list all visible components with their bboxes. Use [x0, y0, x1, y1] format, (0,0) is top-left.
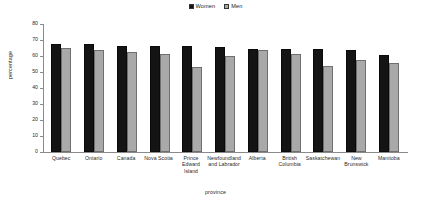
x-category-label: Nova Scotia: [142, 155, 174, 174]
x-category-label: Newfoundland and Labrador: [207, 155, 241, 174]
y-tick-label: 40: [32, 84, 38, 90]
bar-men: [356, 60, 366, 152]
bar-women: [51, 44, 61, 152]
x-category-label: Prince Edward Island: [175, 155, 207, 174]
x-category-label: British Columbia: [273, 155, 305, 174]
bar-women: [248, 49, 258, 152]
x-category-label: Alberta: [241, 155, 273, 174]
bar-women: [313, 49, 323, 152]
bar-women: [182, 46, 192, 152]
bar-group: [176, 24, 209, 152]
bar-group: [274, 24, 307, 152]
x-category-label: Saskatchewan: [306, 155, 340, 174]
bar-men: [160, 54, 170, 152]
bar-women: [346, 50, 356, 152]
bar-series-container: [43, 24, 407, 152]
bar-women: [215, 47, 225, 152]
bar-women: [117, 46, 127, 152]
bar-women: [379, 55, 389, 152]
bar-men: [389, 63, 399, 152]
x-axis-title: province: [0, 189, 431, 195]
y-tick-label: 50: [32, 68, 38, 74]
legend-entry-women: Women: [189, 4, 216, 10]
bar-group: [307, 24, 340, 152]
x-axis-category-labels: QuebecOntarioCanadaNova ScotiaPrince Edw…: [43, 155, 407, 174]
legend-swatch-men-icon: [224, 4, 229, 9]
legend-label-women: Women: [196, 4, 216, 10]
bar-men: [94, 50, 104, 152]
chart-legend: Women Men: [0, 4, 431, 10]
y-tick-label: 80: [32, 20, 38, 26]
bar-men: [323, 66, 333, 152]
bar-group: [143, 24, 176, 152]
bar-women: [150, 46, 160, 152]
y-tick-label: 10: [32, 132, 38, 138]
legend-swatch-women-icon: [189, 4, 194, 9]
y-tick-label: 70: [32, 36, 38, 42]
bar-chart: Women Men percentage 01020304050607080 Q…: [0, 0, 431, 207]
bar-men: [291, 54, 301, 152]
bar-women: [281, 49, 291, 152]
x-category-label: Canada: [110, 155, 142, 174]
bar-men: [61, 48, 71, 152]
bar-women: [84, 44, 94, 152]
bar-group: [372, 24, 405, 152]
bar-group: [78, 24, 111, 152]
x-category-label: New Brunswick: [340, 155, 372, 174]
y-tick-label: 20: [32, 116, 38, 122]
x-category-label: Manitoba: [373, 155, 405, 174]
bar-group: [45, 24, 78, 152]
bar-men: [258, 50, 268, 152]
legend-label-men: Men: [231, 4, 242, 10]
legend-entry-men: Men: [224, 4, 242, 10]
bar-men: [225, 56, 235, 152]
bar-men: [192, 67, 202, 152]
bar-men: [127, 52, 137, 152]
bar-group: [241, 24, 274, 152]
bar-group: [209, 24, 242, 152]
y-axis-title: percentage: [7, 35, 13, 95]
bar-group: [110, 24, 143, 152]
y-tick-label: 30: [32, 100, 38, 106]
y-tick-label: 60: [32, 52, 38, 58]
x-category-label: Ontario: [77, 155, 109, 174]
bar-group: [340, 24, 373, 152]
x-category-label: Quebec: [45, 155, 77, 174]
y-tick-label: 0: [35, 148, 38, 154]
